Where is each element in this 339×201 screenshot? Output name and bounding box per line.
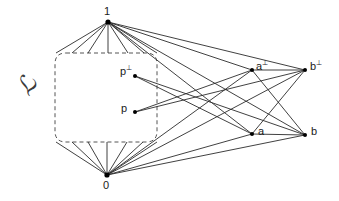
node-label-a-perp: a⊥ xyxy=(256,61,268,72)
perp-superscript: ⊥ xyxy=(126,64,132,71)
node-label-p: p xyxy=(121,103,127,114)
fan-top-line xyxy=(88,22,108,53)
node-label-b-perp: b⊥ xyxy=(310,61,322,72)
edge-one-to-b-perp xyxy=(108,22,305,70)
edge-p-to-a-perp xyxy=(135,70,252,112)
node-label-zero: 0 xyxy=(103,180,109,191)
node-dot-p[interactable] xyxy=(133,110,137,114)
node-dot-b-perp[interactable] xyxy=(303,68,307,72)
diagram-canvas xyxy=(0,0,339,201)
node-dot-a[interactable] xyxy=(250,132,254,136)
node-label-text: 0 xyxy=(103,179,109,191)
hasse-diagram-figure: ℒ 1p⊥pa⊥b⊥ab0 xyxy=(0,0,339,201)
lattice-edges-group xyxy=(107,22,305,175)
fan-top-line xyxy=(72,22,108,53)
perp-superscript: ⊥ xyxy=(316,59,322,66)
perp-superscript: ⊥ xyxy=(262,59,268,66)
node-label-b: b xyxy=(311,126,317,137)
edge-zero-to-b-perp xyxy=(107,70,305,175)
node-label-a: a xyxy=(258,126,264,137)
fan-bottom-line xyxy=(88,142,107,175)
edge-one-to-b xyxy=(108,22,305,135)
node-dot-zero[interactable] xyxy=(104,172,109,177)
edge-p-perp-to-a xyxy=(135,76,252,134)
node-label-p-perp: p⊥ xyxy=(120,66,132,77)
dashed-sublattice-boundary xyxy=(55,53,157,142)
fan-lines-group xyxy=(56,22,157,175)
fan-bottom-line xyxy=(72,142,107,175)
node-label-text: p xyxy=(121,102,127,114)
node-dot-b[interactable] xyxy=(303,133,307,137)
fan-top-line xyxy=(108,22,128,53)
fan-bottom-line xyxy=(56,142,107,175)
node-label-text: b xyxy=(311,125,317,137)
node-dot-one[interactable] xyxy=(105,19,110,24)
node-label-one: 1 xyxy=(104,6,110,17)
node-dot-p-perp[interactable] xyxy=(133,74,137,78)
node-label-text: a xyxy=(258,125,264,137)
fan-top-line xyxy=(56,22,108,53)
dashed-region-group xyxy=(55,53,157,142)
edge-zero-to-a-perp xyxy=(107,70,252,175)
node-label-text: 1 xyxy=(104,5,110,17)
node-dot-a-perp[interactable] xyxy=(250,68,254,72)
